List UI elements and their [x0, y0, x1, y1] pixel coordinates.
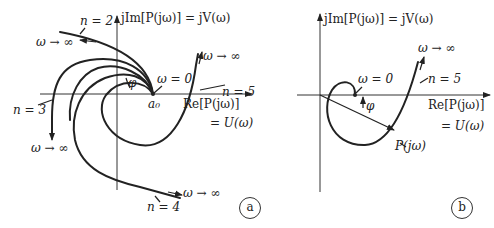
- arrow-n5: [199, 52, 202, 64]
- label-n4: n = 4: [147, 201, 180, 213]
- label-omega0-a: ω = 0: [157, 73, 192, 85]
- panel-a-y-label: jIm[P(jω)] = jV(ω): [121, 12, 230, 24]
- panel-a-arrows: [38, 28, 225, 202]
- arrow-n5-b: [420, 57, 424, 70]
- panel-a-tag: a: [239, 197, 261, 219]
- curve-n3: [52, 59, 153, 135]
- label-n2-end: ω → ∞: [36, 36, 73, 48]
- label-omega0-b: ω = 0: [358, 73, 393, 85]
- label-phi-b: φ: [366, 100, 374, 112]
- origin-point-a0: [151, 92, 155, 96]
- curve-n4: [74, 75, 180, 198]
- label-n5-end-b: ω → ∞: [418, 42, 455, 54]
- label-n3: n = 3: [13, 104, 46, 116]
- label-n5-b: n = 5: [428, 73, 461, 85]
- panel-b-x-label: Re[P(jω)]: [428, 99, 484, 111]
- label-n4-end: ω → ∞: [183, 187, 220, 199]
- panel-b-tag: b: [451, 197, 473, 219]
- label-p-jw: P(jω): [395, 140, 426, 152]
- leader-n2: [80, 28, 85, 34]
- leader-omega0-b: [356, 87, 362, 93]
- panel-a-curves: [52, 32, 198, 198]
- panel-b-y-label: jIm[P(jω)] = jV(ω): [324, 13, 433, 25]
- panel-a-x-label2: = U(ω): [210, 117, 253, 129]
- label-phi-a: φ: [128, 77, 136, 89]
- curve-inner: [70, 66, 153, 120]
- diagram-canvas: [0, 0, 494, 228]
- leader-n5-b: [420, 78, 428, 83]
- label-n5-end: ω → ∞: [203, 50, 240, 62]
- label-n3-end: ω → ∞: [31, 142, 68, 154]
- leader-omega0: [154, 86, 162, 93]
- label-n2: n = 2: [80, 15, 113, 27]
- label-a0: a₀: [148, 98, 160, 110]
- panel-a-x-label: Re[P(jω)]: [183, 98, 239, 110]
- omega-zero-point-b: [353, 93, 357, 97]
- panel-b-x-label2: = U(ω): [441, 120, 484, 132]
